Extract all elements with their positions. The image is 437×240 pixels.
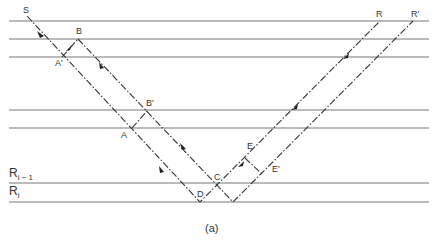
point-label-e-prime: E'	[272, 165, 280, 174]
point-label-a: A	[121, 131, 127, 140]
point-label-s: S	[23, 6, 29, 15]
diagram-canvas	[0, 0, 437, 240]
arrow-heads	[37, 31, 349, 173]
layer-label-r-i-minus-1: Ri − 1	[9, 167, 33, 182]
point-label-a-prime: A'	[55, 59, 63, 68]
point-label-b-prime: B'	[146, 99, 154, 108]
point-label-b: B	[76, 27, 82, 36]
point-label-r: R	[376, 10, 383, 19]
layer-label-r-i: Ri	[9, 185, 19, 200]
point-label-e: E	[247, 142, 253, 151]
point-label-d: D	[197, 190, 204, 199]
figure-caption: (a)	[205, 222, 218, 234]
point-label-c: C	[214, 173, 221, 182]
point-label-r-prime: R'	[411, 10, 419, 19]
